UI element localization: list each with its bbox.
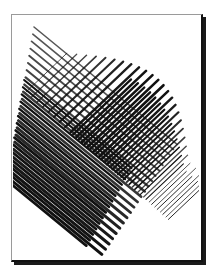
hatch-lines	[7, 27, 207, 254]
up-right-stroke	[160, 173, 201, 212]
up-right-stroke	[152, 172, 187, 205]
up-right-stroke	[168, 187, 203, 220]
up-right-stroke	[37, 55, 86, 102]
up-right-stroke	[163, 182, 198, 215]
up-right-stroke	[157, 177, 192, 210]
crosshatch-artwork	[0, 0, 214, 275]
up-right-stroke	[166, 178, 207, 217]
